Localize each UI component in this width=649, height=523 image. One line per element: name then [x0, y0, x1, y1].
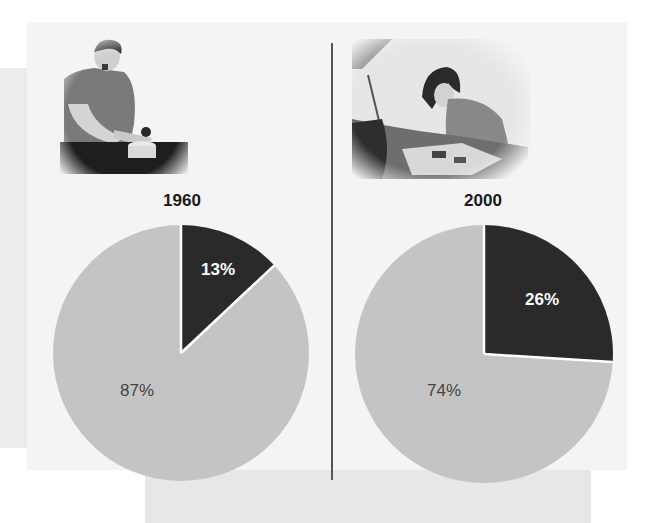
pie-label-light-2000: 74%: [427, 381, 461, 401]
pie-label-dark-2000: 26%: [525, 290, 559, 310]
woman-working-photo: [352, 39, 530, 179]
year-label-1960: 1960: [122, 191, 242, 211]
panel-divider: [331, 43, 333, 480]
pie-label-dark-1960: 13%: [201, 260, 235, 280]
man-cooking-photo: [54, 34, 194, 182]
pie-chart-1960: [53, 225, 309, 481]
year-label-2000: 2000: [423, 191, 543, 211]
background-panel-left: [0, 68, 28, 448]
pie-chart-2000: [355, 225, 613, 483]
pie-label-light-1960: 87%: [120, 381, 154, 401]
